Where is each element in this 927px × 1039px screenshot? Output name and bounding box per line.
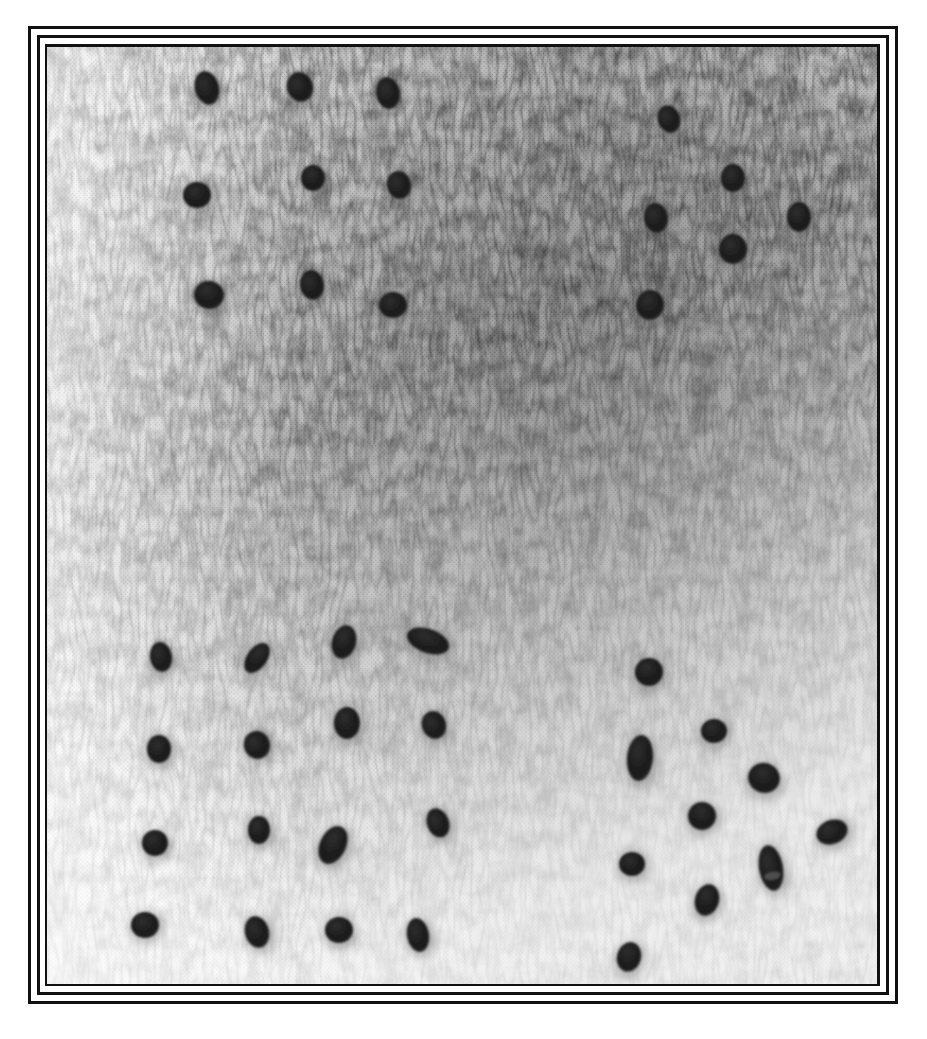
seed [699,718,733,750]
seed [181,181,217,215]
seed [246,815,276,851]
seed-photograph [47,47,877,984]
seed [323,916,359,950]
seed [717,233,753,271]
seed [140,829,174,863]
seed [719,163,751,199]
seed [617,851,651,883]
seed [332,706,366,746]
photo-texture-and-seeds [47,47,877,984]
seed [145,734,177,770]
seed [633,657,669,693]
seed [785,201,817,239]
seed [129,911,165,945]
seed [299,164,331,198]
seed [377,291,413,325]
